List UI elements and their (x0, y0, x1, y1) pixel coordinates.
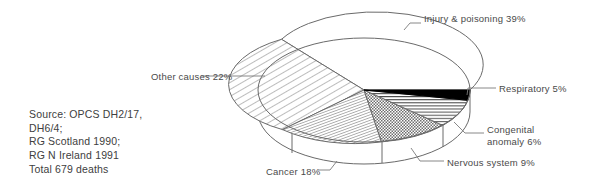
pie-top-face (229, 12, 484, 144)
source-line-4: RG N Ireland 1991 (29, 149, 142, 163)
label-congenital-anomaly: Congenital anomaly 6% (487, 124, 541, 147)
source-line-3: RG Scotland 1990; (29, 135, 142, 149)
label-congenital-anomaly-line1: Congenital (487, 124, 534, 135)
total-deaths-caption: Total 679 deaths (29, 163, 108, 175)
label-respiratory: Respiratory 5% (499, 83, 567, 95)
label-congenital-anomaly-line2: anomaly 6% (487, 136, 541, 148)
label-injury-poisoning: Injury & poisoning 39% (424, 13, 526, 25)
pie-chart-figure: Injury & poisoning 39% Other causes 22% … (0, 0, 590, 191)
source-note: Source: OPCS DH2/17, DH6/4; RG Scotland … (29, 108, 142, 162)
label-nervous-system: Nervous system 9% (447, 157, 535, 169)
label-other-causes: Other causes 22% (151, 71, 232, 83)
label-cancer: Cancer 18% (266, 166, 320, 178)
source-line-1: Source: OPCS DH2/17, (29, 108, 142, 122)
source-line-2: DH6/4; (29, 122, 142, 136)
